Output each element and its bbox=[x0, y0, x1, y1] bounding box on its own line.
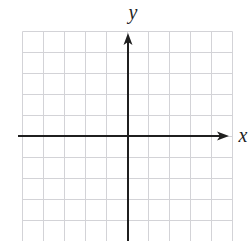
coordinate-plane-svg: x y bbox=[0, 0, 249, 241]
coordinate-plane-figure: x y bbox=[0, 0, 249, 241]
x-axis-label: x bbox=[238, 124, 248, 146]
y-axis-label: y bbox=[127, 1, 138, 24]
